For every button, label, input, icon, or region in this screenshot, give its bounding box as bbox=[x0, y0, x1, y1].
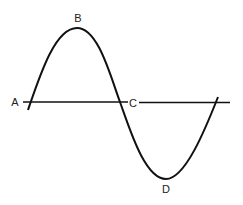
label-b: B bbox=[74, 12, 81, 24]
label-a: A bbox=[11, 96, 19, 108]
label-d: D bbox=[162, 183, 170, 195]
sine-wave-diagram: A B C D bbox=[0, 0, 243, 205]
sine-curve bbox=[28, 28, 218, 179]
label-c: C bbox=[129, 97, 137, 109]
